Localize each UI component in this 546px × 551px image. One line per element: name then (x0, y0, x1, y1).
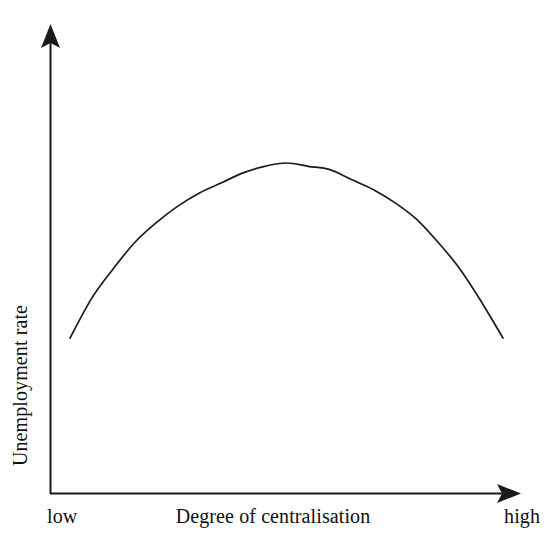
unemployment-rate-curve (70, 163, 503, 338)
x-axis-title: Degree of centralisation (0, 506, 546, 526)
y-axis-title: Unemployment rate (0, 0, 40, 551)
chart-figure: Unemployment rate low Degree of centrali… (0, 0, 546, 551)
y-axis-title-text: Unemployment rate (10, 305, 30, 466)
chart-plot-area (0, 0, 546, 551)
x-axis-max-label: high (504, 506, 540, 526)
